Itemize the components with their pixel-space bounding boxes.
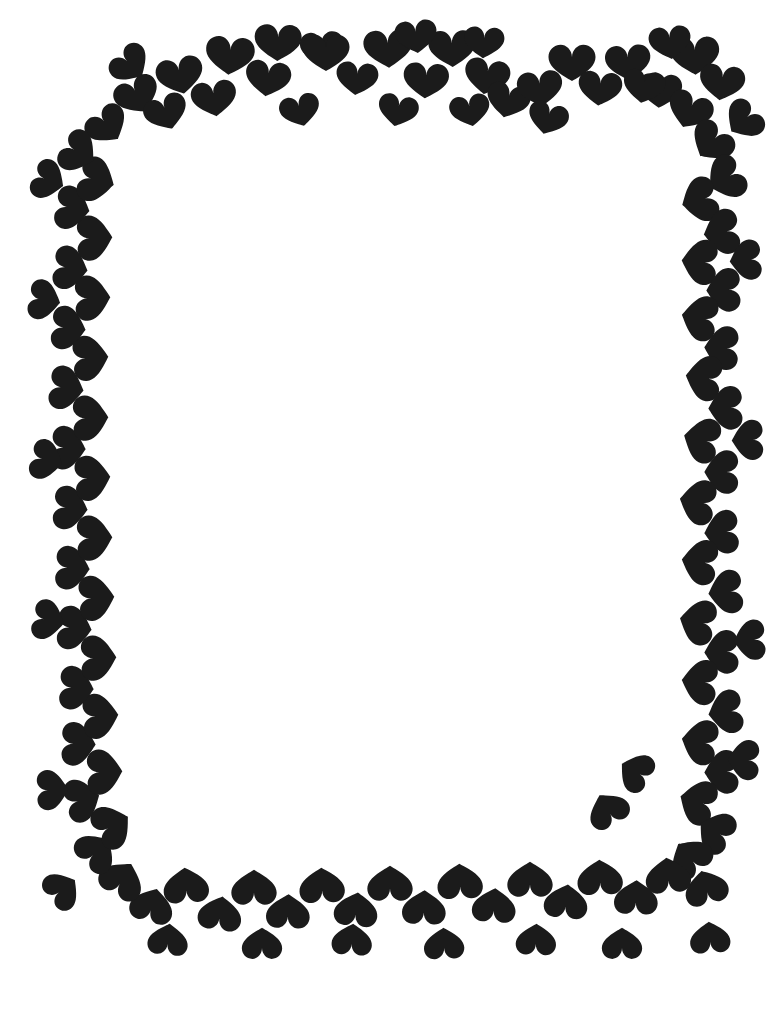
heart-border-page — [0, 0, 784, 1017]
inner-content-area — [140, 130, 640, 870]
